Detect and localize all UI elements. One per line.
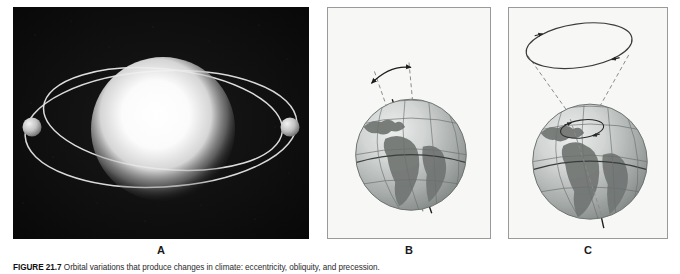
panel-label-a: A [13,244,309,256]
figure-root: A B C FIGURE 21.7 Orbital variations tha… [0,0,680,274]
figure-caption-text: Orbital variations that produce changes … [64,263,380,272]
panel-a-illustration [13,7,309,239]
central-star [91,57,235,201]
panel-b-illustration [328,8,490,238]
globe-b [356,99,467,210]
planet-left [23,118,42,137]
panel-a-eccentricity [13,7,309,239]
panel-label-b: B [327,244,491,256]
panel-b-obliquity [327,7,491,239]
panel-label-c: C [508,244,668,256]
planet-right [281,118,300,137]
panel-c-precession [508,7,668,239]
figure-caption: FIGURE 21.7 Orbital variations that prod… [13,263,668,274]
panel-c-illustration [509,8,667,238]
figure-caption-number: FIGURE 21.7 [13,263,62,272]
